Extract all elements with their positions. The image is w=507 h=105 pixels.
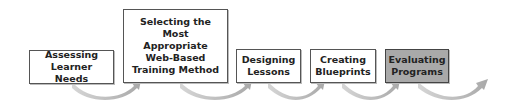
step-assessing-learner-needs: Assessing Learner Needs	[29, 50, 114, 84]
arrow-icon-3	[268, 80, 325, 100]
step-label: Designing Lessons	[237, 54, 300, 78]
step-label: Creating Blueprints	[311, 54, 375, 78]
step-label: Selecting the Most Appropriate Web-Based…	[124, 16, 227, 76]
arrow-icon-4	[342, 80, 400, 100]
step-creating-blueprints: Creating Blueprints	[310, 49, 376, 83]
step-evaluating-programs: Evaluating Programs	[385, 49, 449, 83]
arrow-icon-2	[180, 80, 252, 100]
step-label: Assessing Learner Needs	[30, 49, 113, 85]
step-selecting-training-method: Selecting the Most Appropriate Web-Based…	[123, 9, 228, 83]
step-designing-lessons: Designing Lessons	[236, 49, 301, 83]
step-label: Evaluating Programs	[386, 54, 449, 78]
